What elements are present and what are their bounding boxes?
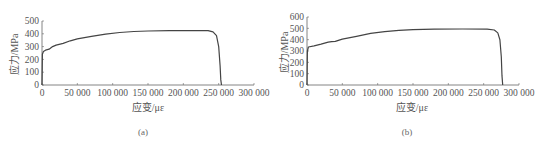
x-tick-label: 300 000 bbox=[504, 88, 535, 98]
x-tick-label: 250 000 bbox=[203, 88, 234, 98]
x-tick-label: 0 bbox=[40, 88, 45, 98]
y-tick-label: 600 bbox=[290, 12, 305, 22]
caption-a: (a) bbox=[123, 127, 163, 137]
stress-strain-chart-a: 0100200300400500050 000100 000150 000200… bbox=[0, 0, 274, 147]
y-tick-label: 200 bbox=[290, 58, 305, 68]
x-tick-label: 50 000 bbox=[329, 88, 355, 98]
x-axis-title-b: 应变/με bbox=[372, 99, 452, 114]
chart-panel-a: 0100200300400500050 000100 000150 000200… bbox=[0, 0, 274, 147]
y-tick-label: 100 bbox=[25, 67, 40, 77]
y-tick-label: 500 bbox=[25, 16, 40, 26]
x-tick-label: 150 000 bbox=[398, 88, 429, 98]
stress-strain-curve bbox=[42, 31, 222, 85]
y-axis-title-a: 应力/MPa bbox=[6, 20, 21, 90]
x-axis-title-a: 应变/με bbox=[108, 99, 188, 114]
y-axis-title-b: 应力/MPa bbox=[276, 18, 291, 88]
x-tick-label: 250 000 bbox=[468, 88, 499, 98]
x-tick-label: 100 000 bbox=[362, 88, 393, 98]
y-tick-label: 0 bbox=[34, 80, 39, 90]
x-tick-label: 300 000 bbox=[239, 88, 270, 98]
x-tick-label: 200 000 bbox=[168, 88, 199, 98]
x-tick-label: 100 000 bbox=[97, 88, 128, 98]
x-tick-label: 50 000 bbox=[64, 88, 90, 98]
y-tick-label: 100 bbox=[290, 69, 305, 79]
chart-panel-b: 0100200300400500600050 000100 000150 000… bbox=[274, 0, 548, 147]
caption-b: (b) bbox=[387, 127, 427, 137]
y-tick-label: 500 bbox=[290, 24, 305, 34]
stress-strain-chart-b: 0100200300400500600050 000100 000150 000… bbox=[274, 0, 548, 147]
x-tick-label: 200 000 bbox=[433, 88, 464, 98]
y-tick-label: 0 bbox=[299, 80, 304, 90]
y-tick-label: 400 bbox=[25, 29, 40, 39]
stress-strain-curve bbox=[307, 29, 503, 85]
y-tick-label: 300 bbox=[290, 46, 305, 56]
y-tick-label: 300 bbox=[25, 42, 40, 52]
x-tick-label: 0 bbox=[305, 88, 310, 98]
y-tick-label: 400 bbox=[290, 35, 305, 45]
y-tick-label: 200 bbox=[25, 55, 40, 65]
x-tick-label: 150 000 bbox=[133, 88, 164, 98]
